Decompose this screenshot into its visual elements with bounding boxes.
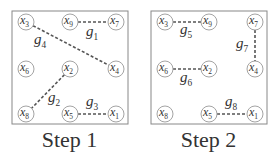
step-2-diagram: g5g6g7g8x3x9x7x6x2x4x8x5x1 [139,0,278,130]
edge-label-g5: g5 [180,21,193,40]
edge-label-g2: g2 [48,89,61,108]
edge-label-g1: g1 [86,23,99,42]
edge-label-g4: g4 [34,31,47,50]
edge-label-g6: g6 [180,69,193,88]
edge-label-g3: g3 [86,93,99,112]
edge-label-g7: g7 [236,35,249,54]
step-2-caption: Step 2 [139,127,278,153]
step-1-diagram: g1g2g3g4x3x9x7x6x2x4x8x5x1 [0,0,139,130]
step-2-panel: g5g6g7g8x3x9x7x6x2x4x8x5x1 Step 2 [139,0,278,162]
edge-label-g8: g8 [225,93,238,112]
step-1-caption: Step 1 [0,127,139,153]
step-1-panel: g1g2g3g4x3x9x7x6x2x4x8x5x1 Step 1 [0,0,139,162]
